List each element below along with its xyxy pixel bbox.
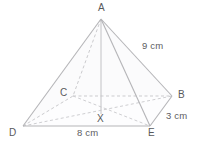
vertex-label-C: C: [60, 87, 67, 98]
vertex-label-D: D: [9, 127, 16, 138]
vertex-label-A: A: [98, 2, 105, 13]
pyramid-diagram: [0, 0, 199, 146]
vertex-label-B: B: [178, 89, 185, 100]
measurement-label-9cm: 9 cm: [142, 40, 163, 51]
measurement-label-3cm: 3 cm: [166, 110, 187, 121]
vertex-label-E: E: [148, 127, 155, 138]
measurement-label-8cm: 8 cm: [77, 127, 98, 138]
vertex-label-X: X: [97, 113, 104, 124]
